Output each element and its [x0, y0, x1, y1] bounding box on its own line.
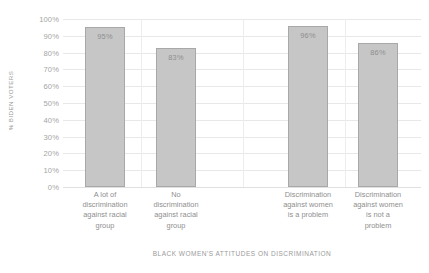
y-axis-tick-label: 10% — [44, 166, 60, 175]
y-axis-tick-label: 30% — [44, 132, 60, 141]
y-axis-tick-label: 20% — [44, 149, 60, 158]
y-axis-title-text: % BIDEN VOTERS — [8, 70, 15, 130]
x-axis-category-label-line: No — [138, 190, 214, 200]
x-axis-category-label: Discriminationagainst womenis a problem — [270, 190, 346, 221]
y-axis-tick-label: 100% — [39, 15, 59, 24]
bar-value-label: 95% — [86, 32, 124, 41]
y-axis-tick-label: 60% — [44, 82, 60, 91]
x-axis-category-label-line: discrimination — [67, 200, 143, 210]
x-axis-category-label: A lot ofdiscriminationagainst racialgrou… — [67, 190, 143, 231]
y-axis-tick-label: 40% — [44, 115, 60, 124]
y-axis-tick-label: 90% — [44, 31, 60, 40]
bar-value-label: 86% — [359, 48, 397, 57]
y-axis-tick-label: 70% — [44, 65, 60, 74]
x-axis-category-label-line: discrimination — [138, 200, 214, 210]
bar: 83% — [156, 48, 196, 187]
x-axis-category-label-line: against women — [270, 200, 346, 210]
bar: 95% — [85, 27, 125, 187]
x-axis-category-label: Nodiscriminationagainst racialgroup — [138, 190, 214, 231]
x-axis-category-label-line: is a problem — [270, 210, 346, 220]
bar: 96% — [288, 26, 328, 187]
x-axis-category-label-line: problem — [340, 221, 416, 231]
x-axis-category-label-line: A lot of — [67, 190, 143, 200]
x-axis-category-labels: A lot ofdiscriminationagainst racialgrou… — [63, 190, 421, 246]
x-axis-category-label-line: group — [138, 221, 214, 231]
y-axis-tick-label: 50% — [44, 99, 60, 108]
x-axis-category-label: Discriminationagainst womenis not aprobl… — [340, 190, 416, 231]
bar-value-label: 83% — [157, 53, 195, 62]
bar-chart: % BIDEN VOTERS 100%90%80%70%60%50%40%30%… — [0, 0, 429, 273]
y-axis-tick-label: 80% — [44, 48, 60, 57]
bar-value-label: 96% — [289, 31, 327, 40]
bar: 86% — [358, 43, 398, 187]
x-axis-category-label-line: against women — [340, 200, 416, 210]
bars-layer: 95%83%96%86% — [63, 19, 421, 187]
plot-area: 95%83%96%86% — [63, 19, 421, 187]
y-axis-title: % BIDEN VOTERS — [0, 0, 22, 200]
x-axis-category-label-line: is not a — [340, 210, 416, 220]
x-axis-category-label-line: against racial — [67, 210, 143, 220]
x-axis-category-label-line: against racial — [138, 210, 214, 220]
x-axis-title: BLACK WOMEN'S ATTITUDES ON DISCRIMINATIO… — [63, 250, 421, 257]
x-axis-category-label-line: Discrimination — [340, 190, 416, 200]
x-axis-category-label-line: group — [67, 221, 143, 231]
gridline — [63, 187, 421, 188]
y-axis-tick-label: 0% — [48, 183, 59, 192]
x-axis-category-label-line: Discrimination — [270, 190, 346, 200]
y-axis-tick-labels: 100%90%80%70%60%50%40%30%20%10%0% — [22, 19, 62, 187]
